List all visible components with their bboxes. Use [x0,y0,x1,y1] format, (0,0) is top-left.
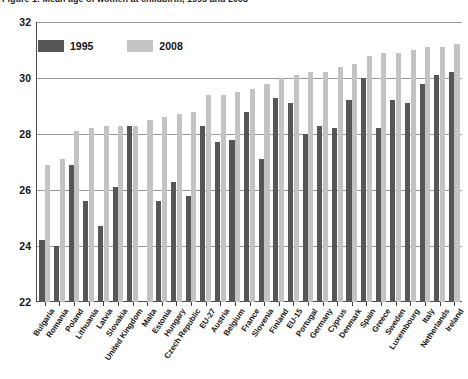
bar-1995 [449,72,454,302]
x-tick [337,302,338,306]
x-tick [264,302,265,306]
x-tick [45,302,46,306]
x-axis-labels: BulgariaRomaniaPolandLithuaniaLatviaSlov… [38,307,468,379]
x-tick [352,302,353,306]
x-tick [191,302,192,306]
x-tick [103,302,104,306]
x-tick [293,302,294,306]
x-tick [147,302,148,306]
x-tick [366,302,367,306]
y-tick-label: 32 [19,16,31,28]
x-tick [410,302,411,306]
y-tick-label: 22 [19,296,31,308]
x-tick [133,302,134,306]
x-tick [381,302,382,306]
x-tick [206,302,207,306]
x-tick [220,302,221,306]
x-tick [74,302,75,306]
x-tick [323,302,324,306]
x-tick [440,302,441,306]
bar-group [38,22,462,302]
x-tick [118,302,119,306]
bar-chart: Figure 1: Mean age of women at childbirt… [0,0,468,379]
y-tick-label: 30 [19,72,31,84]
x-tick [89,302,90,306]
x-tick [59,302,60,306]
x-tick [162,302,163,306]
x-tick [176,302,177,306]
y-tick-label: 24 [19,240,31,252]
x-tick [250,302,251,306]
x-tick [308,302,309,306]
x-tick [235,302,236,306]
y-tick-label: 28 [19,128,31,140]
x-tick [396,302,397,306]
chart-title-text: Figure 1: Mean age of women at childbirt… [2,0,248,4]
y-tick-label: 26 [19,184,31,196]
x-tick [279,302,280,306]
bars-layer [38,22,462,302]
bar-2008 [454,44,459,302]
x-tick [425,302,426,306]
x-tick [454,302,455,306]
y-axis-labels: 323028262422 [0,0,34,379]
chart-title-cropped: Figure 1: Mean age of women at childbirt… [0,0,468,12]
